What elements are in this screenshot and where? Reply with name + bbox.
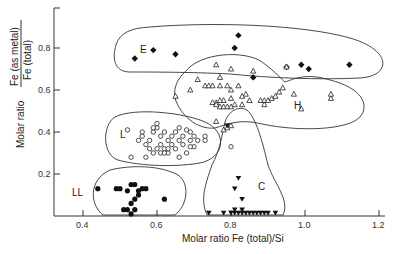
- data-point-L: [188, 130, 192, 134]
- data-point-LL: [136, 192, 141, 197]
- data-point-L: [181, 134, 185, 138]
- data-point-H: [225, 83, 230, 88]
- data-point-L: [192, 134, 196, 138]
- data-point-H: [214, 119, 219, 124]
- data-point-LL: [125, 207, 130, 212]
- data-point-L: [129, 155, 133, 159]
- data-point-H: [236, 83, 241, 88]
- data-point-H: [195, 77, 200, 82]
- group-label-H: H: [294, 100, 301, 111]
- data-point-E: [346, 62, 352, 68]
- data-point-L: [151, 130, 155, 134]
- axes: 0.40.60.81.01.2 0.20.40.60.8: [38, 8, 385, 230]
- data-point-H: [243, 91, 248, 96]
- data-point-E: [298, 62, 304, 68]
- data-point-L: [188, 145, 192, 149]
- data-point-C: [239, 197, 245, 202]
- data-point-LL: [129, 211, 134, 216]
- x-tick-label: 0.4: [76, 220, 89, 230]
- data-point-L: [144, 155, 148, 159]
- y-axis-title: Molar ratio Fe (as metal) Fe (total): [9, 20, 33, 148]
- data-point-L: [170, 142, 174, 146]
- data-point-C: [236, 176, 242, 181]
- y-tick-label: 0.8: [38, 43, 51, 53]
- group-label-L: L: [120, 129, 126, 140]
- data-point-L: [196, 138, 200, 142]
- data-point-H: [217, 75, 222, 80]
- data-point-L: [181, 142, 185, 146]
- data-point-L: [136, 138, 140, 142]
- data-point-L: [170, 134, 174, 138]
- x-tick-label: 0.6: [150, 220, 163, 230]
- y-tick-label: 0.2: [38, 169, 51, 179]
- data-point-H: [228, 96, 233, 101]
- data-point-L: [203, 134, 207, 138]
- data-point-L: [159, 134, 163, 138]
- data-point-L: [162, 151, 166, 155]
- scatter-chart: 0.40.60.81.01.2 0.20.40.60.8 E H L LL C …: [0, 0, 399, 254]
- data-point-H: [188, 87, 193, 92]
- data-point-L: [184, 151, 188, 155]
- region-C: [204, 108, 285, 215]
- data-point-L: [162, 130, 166, 134]
- data-point-H: [247, 98, 252, 103]
- data-point-L: [151, 126, 155, 130]
- data-point-E: [172, 51, 178, 57]
- data-point-L: [173, 147, 177, 151]
- y-axis-title-prefix: Molar ratio: [15, 100, 26, 148]
- data-point-LL: [162, 197, 167, 202]
- data-point-H: [173, 94, 178, 99]
- data-point-H: [328, 91, 333, 96]
- data-point-E: [235, 32, 241, 38]
- data-point-L: [188, 138, 192, 142]
- region-H: [175, 55, 364, 129]
- data-point-L: [173, 130, 177, 134]
- x-tick-label: 0.8: [224, 220, 237, 230]
- data-point-LL: [132, 207, 137, 212]
- data-point-LL: [143, 186, 148, 191]
- x-tick-label: 1.2: [372, 220, 385, 230]
- group-label-C: C: [258, 181, 265, 192]
- data-point-E: [150, 47, 156, 53]
- data-point-H: [280, 85, 285, 90]
- data-point-L: [203, 138, 207, 142]
- data-point-E: [232, 45, 238, 51]
- data-point-E: [132, 55, 138, 61]
- x-tick-label: 1.0: [298, 220, 311, 230]
- y-axis-title-denominator: Fe (total): [22, 40, 33, 80]
- data-point-L: [159, 142, 163, 146]
- group-label-LL: LL: [72, 187, 84, 198]
- y-axis-title-numerator: Fe (as metal): [9, 27, 20, 86]
- data-point-L: [151, 151, 155, 155]
- data-point-H: [291, 91, 296, 96]
- data-point-LL: [132, 197, 137, 202]
- data-point-H: [217, 83, 222, 88]
- data-points: [95, 32, 352, 216]
- data-point-L: [177, 126, 181, 130]
- data-point-L: [140, 134, 144, 138]
- data-point-LL: [117, 186, 122, 191]
- data-point-E: [306, 66, 312, 72]
- group-regions: [93, 25, 383, 215]
- y-ticks: 0.20.40.60.8: [38, 43, 60, 179]
- data-point-L: [147, 147, 151, 151]
- group-label-E: E: [140, 44, 147, 55]
- data-point-C: [232, 187, 238, 192]
- data-point-L: [177, 138, 181, 142]
- y-tick-label: 0.4: [38, 127, 51, 137]
- x-axis-title: Molar ratio Fe (total)/Si: [182, 233, 284, 244]
- data-point-L: [166, 147, 170, 151]
- data-point-H: [210, 100, 215, 105]
- data-point-L: [125, 128, 129, 132]
- data-point-H: [217, 98, 222, 103]
- data-point-LL: [132, 182, 137, 187]
- data-point-LL: [125, 188, 130, 193]
- data-point-H: [240, 102, 245, 107]
- y-tick-label: 0.6: [38, 85, 51, 95]
- data-point-L: [177, 155, 181, 159]
- data-point-L: [166, 138, 170, 142]
- data-point-L: [140, 130, 144, 134]
- data-point-L: [155, 121, 159, 125]
- data-point-LL: [95, 186, 100, 191]
- data-point-L: [147, 138, 151, 142]
